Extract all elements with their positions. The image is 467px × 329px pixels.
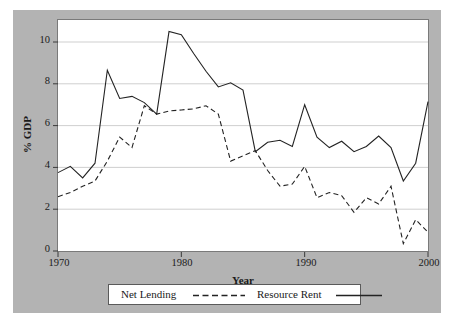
legend-label-resource-rent: Resource Rent [257,285,321,304]
solid-line-key-icon [336,294,388,297]
legend-label-net-lending: Net Lending [121,285,176,304]
series-line-resource-rent [58,32,428,181]
figure-canvas: % GDP Year 10 8 6 4 2 0 1970 1980 1990 2… [0,0,467,329]
dashed-line-key-icon [193,294,245,297]
series-line-net-lending [58,106,428,244]
y-gridlines [58,42,428,209]
x-tick-marks [58,252,428,257]
y-tick-marks [53,42,58,251]
chart-svg-layer [0,0,467,329]
legend-box: Net Lending Resource Rent [108,284,361,305]
